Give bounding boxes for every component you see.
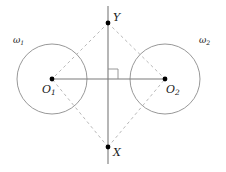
point-O2 xyxy=(163,77,168,82)
label-omega-2: ω2 xyxy=(199,36,210,46)
label-point-O1: O1 xyxy=(42,84,56,97)
segment-Y-O2 xyxy=(108,23,165,79)
point-O1 xyxy=(50,77,55,82)
segment-Y-O1 xyxy=(52,23,108,79)
label-point-Y-text: Y xyxy=(113,11,120,24)
label-point-X-text: X xyxy=(113,146,121,159)
label-point-O2-text: O xyxy=(166,83,175,96)
label-point-O1-text: O xyxy=(42,83,51,96)
label-omega-1: ω1 xyxy=(13,36,24,46)
right-angle-icon xyxy=(108,69,118,79)
point-Y xyxy=(106,21,111,26)
label-point-Y: Y xyxy=(113,12,120,23)
geometry-figure: ω1 ω2 O1 O2 Y X xyxy=(0,0,226,172)
label-point-O2: O2 xyxy=(166,84,180,97)
label-point-O2-subscript: 2 xyxy=(175,88,180,97)
label-point-X: X xyxy=(113,147,121,158)
label-omega-2-subscript: 2 xyxy=(206,39,210,46)
label-point-O1-subscript: 1 xyxy=(51,88,56,97)
point-X xyxy=(106,145,111,150)
label-omega-1-subscript: 1 xyxy=(20,39,24,46)
